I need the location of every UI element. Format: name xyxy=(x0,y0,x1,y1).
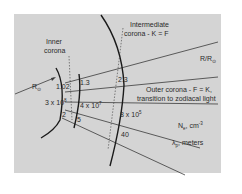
intermediate-label-1: Intermediate xyxy=(130,21,169,28)
wavelength-value-2: 5 xyxy=(77,116,81,123)
inner-corona-label-2: corona xyxy=(44,47,66,54)
corona-diagram: Inner corona Intermediate corona - K = F… xyxy=(0,0,242,194)
radius-ratio-label: R/R⊙ xyxy=(200,55,216,64)
arc-outer xyxy=(101,15,124,166)
intermediate-label-2: corona - K = F xyxy=(124,30,169,37)
wavelength-label: λp, meters xyxy=(172,139,204,148)
density-value-3: 8 x 105 xyxy=(120,110,142,118)
density-value-2: 4 x 107 xyxy=(80,101,102,109)
r-solar-label: R⊙ xyxy=(32,83,41,92)
radius-value-2: 1.3 xyxy=(80,79,90,86)
wavelength-value-1: 2 xyxy=(62,111,66,118)
inner-corona-label-1: Inner xyxy=(46,38,63,45)
radius-value-1: 1.02 xyxy=(56,83,70,90)
outer-corona-label-1: Outer corona - F = K, xyxy=(146,86,212,93)
wavelength-value-3: 40 xyxy=(121,131,129,138)
radius-value-3: 2.3 xyxy=(118,76,128,83)
outer-corona-label-2: transition to zodiacal light xyxy=(137,95,216,103)
density-value-1: 3 x 108 xyxy=(45,98,67,106)
electron-density-label: Ne, cm-3 xyxy=(178,121,203,131)
radius-line-top xyxy=(65,42,218,83)
arrow-head-icon xyxy=(51,77,56,81)
